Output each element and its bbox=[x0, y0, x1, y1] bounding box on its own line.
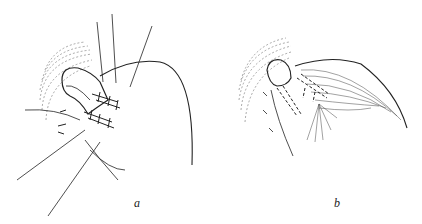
illustration-panel-a: a bbox=[0, 0, 211, 224]
illustration-panel-b: b bbox=[211, 0, 422, 224]
panel-label-a: a bbox=[134, 196, 140, 211]
panel-label-b: b bbox=[334, 196, 340, 211]
surgical-drawing-a bbox=[0, 0, 211, 224]
surgical-drawing-b bbox=[211, 0, 422, 224]
